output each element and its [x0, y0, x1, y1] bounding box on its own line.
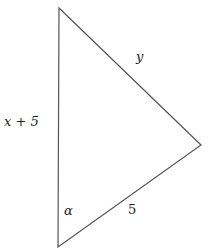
- side-label-y: y: [136, 50, 143, 63]
- side-label-left: x + 5: [4, 115, 39, 128]
- triangle-diagram: x + 5 y 5 α: [0, 0, 218, 248]
- angle-label-alpha: α: [64, 204, 73, 217]
- side-label-bottom: 5: [128, 203, 136, 216]
